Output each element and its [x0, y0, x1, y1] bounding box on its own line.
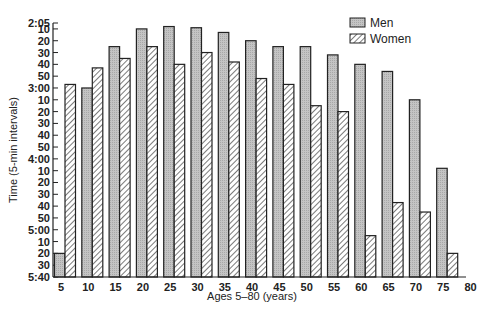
bar-men-age-55	[328, 55, 339, 277]
bar-men-age-75	[437, 168, 448, 277]
bar-men-age-10	[82, 88, 93, 277]
y-tick-label: 4:00	[28, 153, 50, 165]
bar-women-age-45	[283, 84, 294, 277]
legend-swatch-men	[350, 18, 365, 27]
bar-women-age-20	[147, 47, 158, 277]
y-axis-title: Time (5-min intervals)	[7, 97, 19, 203]
y-tick-label: 20	[38, 106, 50, 118]
y-tick-label: 50	[38, 212, 50, 224]
legend-label-men: Men	[370, 16, 393, 30]
bar-women-age-50	[311, 106, 322, 277]
y-tick-label: 30	[38, 117, 50, 129]
y-tick-label: 10	[38, 23, 50, 35]
bars	[55, 27, 458, 277]
x-tick-label: 50	[301, 281, 313, 293]
x-tick-label: 20	[137, 281, 149, 293]
y-tick-label: 30	[38, 188, 50, 200]
bar-women-age-60	[365, 236, 376, 277]
bar-men-age-15	[109, 47, 120, 277]
y-tick-label: 40	[38, 200, 50, 212]
y-tick-label: 20	[38, 247, 50, 259]
bar-chart: 2:0510203040503:0010203040504:0010203040…	[0, 0, 485, 310]
y-axis: 2:0510203040503:0010203040504:0010203040…	[28, 17, 58, 283]
bar-men-age-40	[246, 41, 257, 277]
y-tick-label: 5:00	[28, 224, 50, 236]
y-tick-label: 10	[38, 165, 50, 177]
bar-women-age-25	[174, 64, 185, 277]
bar-women-age-35	[229, 62, 240, 277]
legend-label-women: Women	[370, 32, 411, 46]
bar-men-age-45	[273, 47, 284, 277]
x-tick-label: 60	[355, 281, 367, 293]
y-tick-label: 40	[38, 129, 50, 141]
y-tick-label: 10	[38, 94, 50, 106]
y-tick-label: 3:00	[28, 82, 50, 94]
bar-women-age-40	[256, 79, 267, 277]
bar-women-age-75	[447, 253, 458, 277]
x-tick-label: 25	[164, 281, 176, 293]
x-tick-label: 55	[328, 281, 340, 293]
y-tick-label: 20	[38, 35, 50, 47]
x-tick-label: 65	[382, 281, 394, 293]
bar-men-age-20	[136, 29, 147, 277]
y-tick-label: 5:40	[28, 271, 50, 283]
bar-women-age-70	[420, 212, 431, 277]
bar-women-age-10	[92, 68, 103, 277]
bar-men-age-50	[300, 47, 311, 277]
bar-women-age-5	[65, 84, 76, 277]
bar-women-age-65	[393, 203, 404, 277]
bar-women-age-55	[338, 112, 349, 277]
bar-men-age-65	[382, 71, 393, 277]
bar-women-age-30	[202, 53, 213, 277]
x-tick-label: 5	[58, 281, 64, 293]
bar-men-age-35	[218, 32, 229, 277]
x-tick-label: 15	[109, 281, 121, 293]
x-tick-label: 70	[410, 281, 422, 293]
x-tick-label: 75	[437, 281, 449, 293]
y-tick-label: 30	[38, 259, 50, 271]
legend: Men Women	[350, 16, 411, 46]
bar-men-age-30	[191, 28, 202, 277]
x-tick-label: 80	[464, 281, 476, 293]
x-tick-label: 10	[82, 281, 94, 293]
y-tick-label: 20	[38, 176, 50, 188]
x-tick-label: 30	[191, 281, 203, 293]
bar-men-age-60	[355, 64, 366, 277]
bar-men-age-70	[409, 100, 420, 277]
y-tick-label: 40	[38, 58, 50, 70]
x-axis-title: Ages 5–80 (years)	[207, 290, 297, 302]
y-tick-label: 50	[38, 70, 50, 82]
legend-swatch-women	[350, 34, 365, 43]
bar-men-age-25	[164, 27, 175, 277]
y-tick-label: 50	[38, 141, 50, 153]
y-tick-label: 10	[38, 236, 50, 248]
bar-men-age-5	[55, 253, 66, 277]
bar-women-age-15	[120, 58, 131, 277]
y-tick-label: 30	[38, 47, 50, 59]
